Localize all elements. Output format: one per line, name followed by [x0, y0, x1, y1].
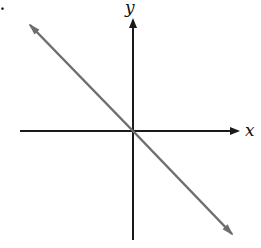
part-marker: .	[0, 0, 5, 13]
graph-figure: . y x	[0, 0, 261, 248]
x-axis-label: x	[245, 120, 255, 140]
y-axis-label: y	[124, 0, 135, 17]
line-lower-right	[133, 131, 232, 234]
line-upper-left	[30, 25, 133, 131]
